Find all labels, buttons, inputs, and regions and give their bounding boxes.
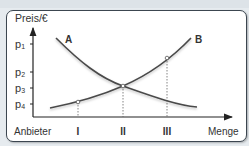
curve-b: [50, 38, 191, 108]
point-III: [165, 56, 169, 60]
tick-p2: p2: [15, 66, 25, 78]
x-tick-III: III: [163, 126, 172, 137]
curve-a: [56, 38, 197, 107]
x-tick-II: II: [120, 126, 126, 137]
origin-label: Anbieter: [14, 126, 52, 137]
supply-demand-chart: Preis/€ p1 p2 p3 p4 A B Anbieter I II II…: [0, 0, 249, 146]
point-II: [121, 84, 125, 88]
curve-b-label: B: [195, 34, 202, 45]
tick-p1: p1: [15, 38, 25, 50]
x-tick-I: I: [77, 126, 80, 137]
y-axis-label: Preis/€: [15, 12, 48, 24]
curve-a-label: A: [65, 34, 72, 45]
point-I: [76, 100, 80, 104]
tick-p3: p3: [15, 82, 25, 94]
x-axis-label: Menge: [208, 126, 239, 137]
tick-p4: p4: [15, 98, 25, 110]
